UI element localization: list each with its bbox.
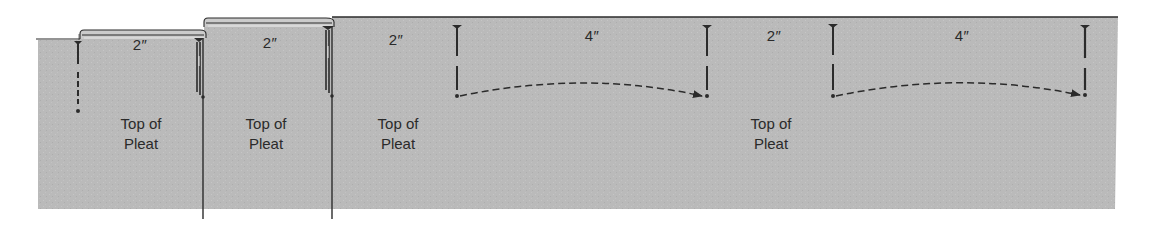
pleat-label-line2: Pleat	[121, 134, 162, 154]
measurement-label: 4″	[955, 27, 970, 45]
pleat-label: Top of Pleat	[751, 114, 792, 154]
pleat-label-line1: Top of	[751, 114, 792, 134]
pleat-label-line1: Top of	[121, 114, 162, 134]
measurement-label: 2″	[767, 27, 782, 45]
measurement-label: 4″	[585, 27, 600, 45]
pleat-label-line1: Top of	[378, 114, 419, 134]
pleat-label-line2: Pleat	[378, 134, 419, 154]
pleat-label: Top of Pleat	[121, 114, 162, 154]
measurement-label: 2″	[133, 36, 148, 54]
pleat-label-line1: Top of	[246, 114, 287, 134]
measurement-label: 2″	[389, 31, 404, 49]
pleat-label: Top of Pleat	[378, 114, 419, 154]
pleat-label: Top of Pleat	[246, 114, 287, 154]
pleat-label-line2: Pleat	[246, 134, 287, 154]
fold-2	[204, 18, 334, 27]
measurement-label: 2″	[263, 34, 278, 52]
pleat-label-line2: Pleat	[751, 134, 792, 154]
pleat-diagram	[0, 0, 1153, 228]
